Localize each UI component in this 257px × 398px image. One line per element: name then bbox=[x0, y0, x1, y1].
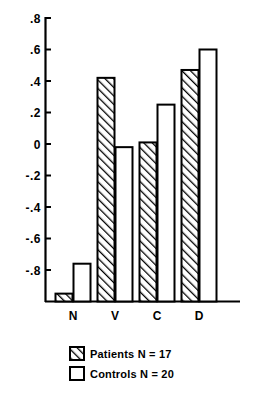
legend-swatch-controls bbox=[70, 367, 84, 380]
bar-V-controls bbox=[116, 147, 133, 301]
bars-layer bbox=[56, 50, 217, 302]
y-tick-label: -.8 bbox=[25, 264, 41, 278]
bar-D-patients bbox=[182, 70, 199, 302]
bar-N-patients bbox=[56, 294, 73, 302]
y-tick-label: .4 bbox=[30, 75, 41, 89]
bar-D-controls bbox=[200, 50, 217, 302]
legend-label-controls: Controls N = 20 bbox=[90, 368, 174, 380]
y-tick-label: .6 bbox=[30, 43, 41, 57]
plot-area: .8 .6 .4 .2 0 -.2 -.4 -.6 -.8 N V C D bbox=[25, 12, 240, 324]
legend-swatch-patients bbox=[70, 347, 84, 360]
x-tick-label: V bbox=[111, 309, 119, 323]
y-tick-label: .2 bbox=[30, 106, 41, 120]
y-tick-label: -.4 bbox=[25, 201, 41, 215]
y-tick-label: -.2 bbox=[25, 169, 41, 183]
bar-N-controls bbox=[74, 264, 91, 302]
x-tick-label: N bbox=[69, 309, 78, 323]
y-tick-labels: .8 .6 .4 .2 0 -.2 -.4 -.6 -.8 bbox=[25, 12, 41, 278]
chart-legend: Patients N = 17 Controls N = 20 bbox=[70, 347, 174, 380]
x-tick-label: D bbox=[195, 309, 204, 323]
y-tick-label: -.6 bbox=[25, 232, 41, 246]
y-tick-label: 0 bbox=[34, 138, 41, 152]
x-tick-label: C bbox=[153, 309, 162, 323]
bar-V-patients bbox=[98, 78, 115, 302]
x-tick-labels: N V C D bbox=[69, 309, 204, 323]
bar-C-patients bbox=[140, 142, 157, 301]
bar-C-controls bbox=[158, 105, 175, 302]
y-tick-label: .8 bbox=[30, 12, 41, 26]
chart-canvas: .8 .6 .4 .2 0 -.2 -.4 -.6 -.8 N V C D bbox=[0, 0, 257, 398]
legend-label-patients: Patients N = 17 bbox=[90, 348, 172, 360]
bar-chart-figure: .8 .6 .4 .2 0 -.2 -.4 -.6 -.8 N V C D bbox=[0, 0, 257, 398]
